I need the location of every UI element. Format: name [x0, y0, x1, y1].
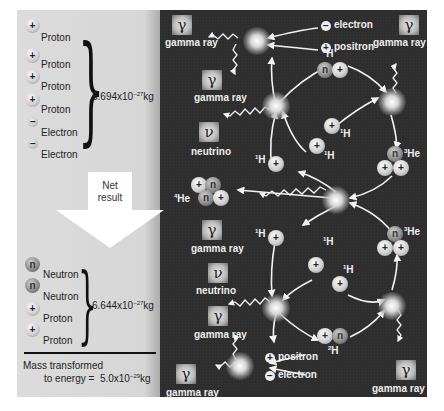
proton-icon: +: [332, 276, 348, 292]
fusion-glow: [262, 294, 290, 322]
positron-icon: +: [265, 353, 275, 363]
gamma-ray-label: gamma ray: [165, 37, 218, 48]
helium-4-label: 4He: [174, 193, 190, 204]
hydrogen-label: 1H: [343, 264, 354, 275]
proton-proton-chain-diagram: + Proton + Proton + Proton + Proton − El…: [0, 0, 444, 411]
hydrogen-label: 1H: [324, 150, 335, 161]
gamma-ray-icon: γ: [396, 360, 416, 380]
proton-icon: +: [377, 160, 393, 176]
neutron-icon: n: [332, 328, 348, 344]
hydrogen-label: 1H: [340, 128, 351, 139]
gamma-ray-label: gamma ray: [373, 37, 426, 48]
electron-label: electron: [334, 19, 373, 30]
electron-label: electron: [278, 369, 317, 380]
gamma-ray-icon: γ: [176, 364, 196, 384]
gamma-ray-label: gamma ray: [194, 329, 247, 340]
deuterium-label: 2H: [328, 345, 339, 356]
gamma-ray-icon: γ: [208, 306, 228, 326]
neutrino-icon: ν: [208, 263, 228, 283]
gamma-ray-icon: γ: [172, 15, 192, 35]
proton-icon: +: [268, 156, 284, 172]
fusion-glow: [378, 292, 406, 320]
fusion-glow: [262, 92, 290, 120]
proton-icon: +: [309, 138, 325, 154]
proton-icon: +: [393, 240, 409, 256]
proton-icon: +: [332, 62, 348, 78]
hydrogen-label: 1H: [323, 236, 334, 247]
helium-3-label: 3He: [404, 148, 420, 159]
neutron-icon: n: [317, 62, 333, 78]
proton-icon: +: [377, 240, 393, 256]
neutrino-icon: ν: [199, 122, 219, 142]
hydrogen-label: 1H: [255, 154, 266, 165]
proton-icon: +: [308, 257, 324, 273]
hydrogen-label: 1H: [255, 228, 266, 239]
proton-icon: +: [324, 118, 340, 134]
proton-icon: +: [317, 328, 333, 344]
electron-icon: −: [265, 371, 275, 381]
gamma-ray-icon: γ: [202, 70, 222, 90]
neutron-icon: n: [198, 190, 214, 206]
proton-icon: +: [268, 230, 284, 246]
fusion-glow: [322, 186, 350, 214]
gamma-ray-label: gamma ray: [372, 383, 425, 394]
positron-label: positron: [278, 351, 318, 362]
gamma-ray-label: gamma ray: [166, 387, 219, 398]
gamma-ray-icon: γ: [202, 220, 222, 240]
gamma-ray-label: gamma ray: [191, 243, 244, 254]
electron-icon: −: [321, 21, 331, 31]
gamma-ray-label: gamma ray: [194, 92, 247, 103]
deuterium-label: 2H: [323, 48, 334, 59]
neutrino-label: neutrino: [196, 285, 236, 296]
positron-label: positron: [334, 41, 374, 52]
helium-3-label: 3He: [404, 226, 420, 237]
annihilation-glow: [243, 27, 271, 55]
proton-icon: +: [393, 160, 409, 176]
fusion-glow: [378, 88, 406, 116]
annihilation-glow: [226, 352, 254, 380]
proton-icon: +: [213, 190, 229, 206]
neutrino-label: neutrino: [191, 146, 231, 157]
gamma-ray-icon: γ: [399, 15, 419, 35]
